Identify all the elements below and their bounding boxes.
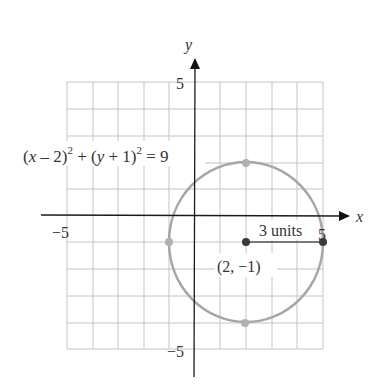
y-axis-arrow-icon	[190, 58, 200, 69]
point-bottom	[241, 319, 249, 327]
y-axis-label: y	[183, 36, 193, 54]
equation-label: (x – 2)2 + (y + 1)2 = 9	[23, 144, 169, 166]
y-axis	[194, 66, 195, 377]
x-tick-right: 5	[318, 226, 326, 243]
axes	[41, 58, 350, 377]
x-tick-left: −5	[52, 224, 69, 241]
radius-label: 3 units	[259, 222, 302, 239]
y-tick-bottom: −5	[167, 343, 184, 360]
x-axis-arrow-icon	[339, 211, 350, 221]
point-top	[242, 159, 250, 167]
x-axis	[41, 215, 343, 216]
circle-diagram: y x 5 −5 −5 5 (x – 2)2 + (y + 1)2 = 9 3 …	[0, 0, 385, 392]
x-axis-label: x	[355, 208, 363, 225]
center-label: (2, −1)	[217, 258, 261, 276]
coordinate-plane: y x 5 −5 −5 5 (x – 2)2 + (y + 1)2 = 9 3 …	[0, 0, 385, 392]
y-tick-top: 5	[176, 75, 184, 92]
point-left	[165, 238, 173, 246]
point-center	[242, 238, 250, 246]
